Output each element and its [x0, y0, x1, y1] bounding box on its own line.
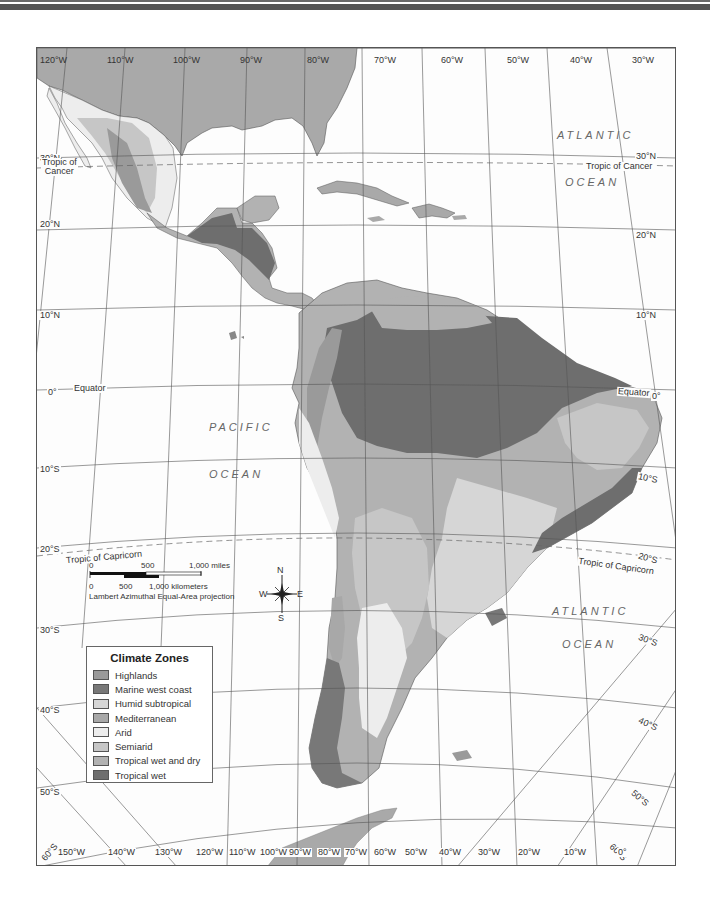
- lat-label-left: 40°S: [39, 706, 61, 715]
- legend-label: Arid: [115, 727, 132, 738]
- lon-label-top: 30°W: [631, 56, 655, 65]
- scale-miles-500: 500: [141, 561, 154, 570]
- region-marine-west-coast-uruguay: [485, 608, 507, 626]
- lat-label-right: 10°N: [635, 311, 657, 320]
- legend-item-mediterranean: Mediterranean: [93, 711, 206, 725]
- scale-km-500: 500: [119, 582, 132, 591]
- top-rule-thick: [0, 4, 710, 10]
- lat-label-left: 30°S: [39, 626, 61, 635]
- scale-bar-graphic: [89, 571, 209, 581]
- lon-label-bottom: 30°W: [477, 848, 501, 857]
- scale-miles-1000: 1,000 miles: [189, 561, 230, 570]
- lon-label-bottom: 70°W: [344, 848, 368, 857]
- legend-item-humid-subtropical: Humid subtropical: [93, 697, 206, 711]
- region-wet-dry-venezuela: [367, 296, 492, 330]
- lat-label-right: 0°: [651, 392, 662, 401]
- legend-swatch: [93, 713, 109, 723]
- scale-miles-0: 0: [89, 561, 93, 570]
- legend-item-marine-west-coast: Marine west coast: [93, 682, 206, 696]
- lon-label-bottom: 80°W: [317, 848, 341, 857]
- legend-label: Semiarid: [115, 741, 153, 752]
- scale-km-0: 0: [89, 582, 93, 591]
- ocean-label-atlantic-south-ocean: OCEAN: [562, 638, 616, 650]
- lat-label-left: 20°N: [39, 220, 61, 229]
- lat-label-right: 30°N: [635, 152, 657, 161]
- ocean-label-pacific-ocean: OCEAN: [209, 468, 263, 480]
- lon-label-bottom: 20°W: [517, 848, 541, 857]
- lat-label-left: 50°S: [39, 788, 61, 797]
- landmass-jamaica: [367, 216, 385, 222]
- lon-label-bottom: 50°W: [404, 848, 428, 857]
- climate-zones-legend: Climate Zones Highlands Marine west coas…: [86, 646, 213, 783]
- lon-label-bottom: 120°W: [195, 848, 224, 857]
- lon-label-bottom: 0°: [617, 848, 628, 857]
- lon-label-top: 70°W: [373, 56, 397, 65]
- lon-label-top: 80°W: [307, 56, 329, 65]
- legend-title: Climate Zones: [93, 652, 206, 664]
- lon-label-top: 40°W: [569, 56, 593, 65]
- compass-star-icon: [267, 575, 297, 613]
- lat-label-left: 10°S: [39, 465, 61, 474]
- compass-north: N: [277, 565, 284, 575]
- landmass-hispaniola: [412, 204, 455, 218]
- legend-swatch: [93, 756, 109, 766]
- scale-km-1000: 1,000 kilometers: [149, 582, 208, 591]
- tropic-of-cancer-label-left: Tropic of Cancer: [41, 158, 78, 176]
- legend-swatch: [93, 670, 109, 680]
- compass-rose: N W E S: [259, 565, 303, 625]
- ocean-label-pacific: PACIFIC: [209, 421, 273, 433]
- legend-label: Humid subtropical: [115, 698, 191, 709]
- equator-label-left: Equator: [73, 384, 107, 393]
- compass-south: S: [278, 613, 284, 623]
- top-rule-thin: [0, 0, 710, 2]
- map-frame: 120°W 110°W 100°W 90°W 80°W 70°W 60°W 50…: [36, 47, 676, 866]
- landmass-falklands: [452, 750, 472, 761]
- legend-label: Tropical wet and dry: [115, 755, 200, 766]
- lon-label-top: 60°W: [440, 56, 464, 65]
- lon-label-top: 110°W: [107, 56, 133, 65]
- projection-note: Lambert Azimuthal Equal-Area projection: [89, 592, 234, 601]
- legend-item-tropical-wet: Tropical wet: [93, 768, 206, 782]
- legend-swatch: [93, 684, 109, 694]
- legend-label: Mediterranean: [115, 713, 176, 724]
- tropic-of-cancer-label-right: Tropic of Cancer: [585, 162, 653, 171]
- lon-label-bottom: 90°W: [288, 848, 312, 857]
- lat-label-left: 10°N: [39, 311, 61, 320]
- lon-label-bottom: 60°W: [373, 848, 397, 857]
- legend-swatch: [93, 770, 109, 780]
- landmass-puerto-rico: [452, 215, 467, 220]
- ocean-label-atlantic-south: ATLANTIC: [552, 605, 628, 617]
- ocean-label-atlantic-north-ocean: OCEAN: [565, 176, 619, 188]
- lon-label-bottom: 40°W: [438, 848, 462, 857]
- legend-swatch: [93, 727, 109, 737]
- lon-label-bottom: 130°W: [154, 848, 183, 857]
- lon-label-top: 120°W: [40, 56, 67, 65]
- landmass-antarctica: [267, 808, 397, 866]
- legend-label: Marine west coast: [115, 684, 192, 695]
- legend-item-highlands: Highlands: [93, 668, 206, 682]
- landmass-galapagos: [229, 331, 244, 340]
- legend-swatch: [93, 699, 109, 709]
- lon-label-bottom: 100°W: [259, 848, 288, 857]
- lon-label-bottom: 110°W: [228, 848, 256, 857]
- compass-east: E: [297, 589, 303, 599]
- scale-bar: 0 500 1,000 miles 0 500 1,000 kilometers…: [89, 561, 269, 611]
- legend-label: Highlands: [115, 670, 157, 681]
- legend-item-semiarid: Semiarid: [93, 739, 206, 753]
- legend-item-tropical-wet-and-dry: Tropical wet and dry: [93, 754, 206, 768]
- lon-label-top: 100°W: [173, 56, 200, 65]
- legend-swatch: [93, 742, 109, 752]
- lon-label-bottom: 10°W: [563, 848, 587, 857]
- lon-label-top: 90°W: [240, 56, 262, 65]
- lon-label-top: 50°W: [506, 56, 530, 65]
- ocean-label-atlantic-north: ATLANTIC: [557, 129, 633, 141]
- lon-label-bottom: 140°W: [107, 848, 136, 857]
- legend-item-arid: Arid: [93, 725, 206, 739]
- lon-label-bottom: 150°W: [57, 848, 86, 857]
- lat-label-right: 20°N: [635, 231, 657, 240]
- legend-label: Tropical wet: [115, 770, 166, 781]
- lat-label-left: 20°S: [39, 545, 61, 554]
- landmass-central-america-wet: [187, 213, 275, 280]
- lat-label-left: 0°: [47, 388, 58, 397]
- tropic-of-cancer-label-line2: Cancer: [42, 167, 77, 176]
